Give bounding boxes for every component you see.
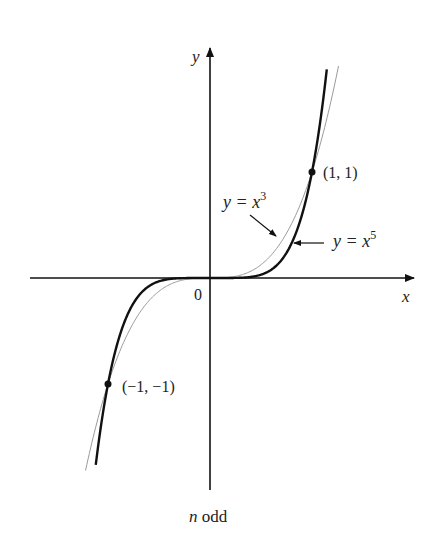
label-x-cubed: y = x3 <box>221 189 266 212</box>
curve-x-cubed <box>86 66 339 471</box>
y-axis-label: y <box>190 47 200 66</box>
point-label-1-1: (1, 1) <box>323 164 358 182</box>
curve-x-fifth <box>96 69 327 464</box>
point-label-neg1-neg1: (−1, −1) <box>122 378 175 396</box>
label-x-fifth: y = x5 <box>331 228 376 251</box>
point-neg1-neg1 <box>105 381 112 388</box>
point-1-1 <box>309 169 316 176</box>
caption: n odd <box>189 507 228 526</box>
graph-canvas: y x 0 (1, 1) (−1, −1) y = x3 y = x5 n od… <box>0 0 437 539</box>
origin-label: 0 <box>194 286 202 303</box>
arrow-x-cubed <box>250 215 276 236</box>
x-axis-label: x <box>401 287 410 306</box>
